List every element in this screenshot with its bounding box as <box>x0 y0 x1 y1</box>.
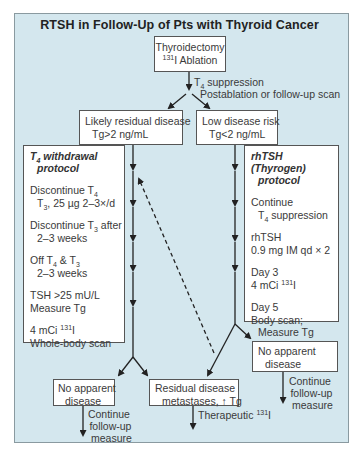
step-whole-body-scan: 4 mCi 131I Whole-body scan <box>30 324 124 349</box>
residual-disease-box: Residual disease metastases, ↑ Tg <box>149 379 239 406</box>
likely-residual-label: Likely residual disease <box>85 115 182 128</box>
tg-lt-2-label: Tg<2 ng/mL <box>202 128 277 141</box>
protocol-subtitle: protocol <box>251 174 338 186</box>
step-tsh-measure: TSH >25 mU/L Measure Tg <box>30 289 124 314</box>
rhtsh-protocol-box: rhTSH (Thyrogen) protocol Continue T4 su… <box>244 145 339 322</box>
step-rhtsh-dose: rhTSH 0.9 mg IM qd × 2 <box>251 231 338 256</box>
rhtsh-title: rhTSH (Thyrogen) <box>251 150 338 174</box>
low-risk-box: Low disease risk Tg<2 ng/mL <box>196 110 278 145</box>
continue-followup-left-label: Continue follow-up measure <box>86 408 132 444</box>
thyroidectomy-label: Thyroidectomy <box>155 41 225 54</box>
continue-followup-right-label: Continue follow-up measure <box>287 375 333 411</box>
thyroidectomy-box: Thyroidectomy 131I Ablation <box>154 36 226 72</box>
no-apparent-disease-left-box: No apparent disease <box>53 379 115 406</box>
tg-gt-2-label: Tg>2 ng/mL <box>85 128 182 141</box>
likely-residual-box: Likely residual disease Tg>2 ng/mL <box>79 110 183 145</box>
t4-suppression-label: T4 suppression Postablation or follow-up… <box>194 76 340 100</box>
ablation-label: 131I Ablation <box>155 54 225 67</box>
no-apparent-disease-right-box: No apparent disease <box>252 341 338 372</box>
step-continue-t4: Continue T4 suppression <box>251 196 338 221</box>
step-day5: Day 5 Body scan; Measure Tg <box>251 301 338 339</box>
low-risk-label: Low disease risk <box>202 115 277 128</box>
t4-withdrawal-protocol-box: T4 withdrawal protocol Discontinue T4 T3… <box>23 145 125 343</box>
step-discontinue-t4: Discontinue T4 T3, 25 µg 2–3×/d <box>30 184 124 209</box>
t4-withdrawal-title: T4 withdrawal <box>30 150 124 162</box>
step-off-t4-t3: Off T4 & T3 2–3 weeks <box>30 254 124 279</box>
therapeutic-i131-label: Therapeutic 131I <box>198 409 271 421</box>
protocol-subtitle: protocol <box>30 162 124 174</box>
step-discontinue-t3: Discontinue T3 after 2–3 weeks <box>30 219 124 244</box>
step-day3: Day 3 4 mCi 131I <box>251 266 338 291</box>
